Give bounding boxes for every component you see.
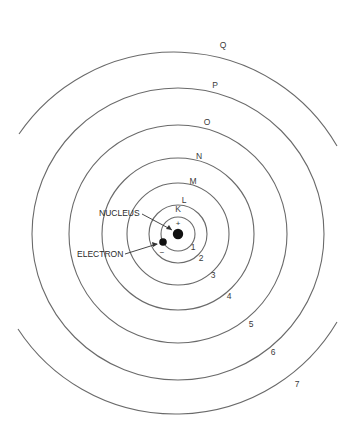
label-o: O <box>204 117 211 127</box>
shell-q-bottom-arc <box>18 322 337 414</box>
label-m: M <box>189 176 196 186</box>
label-7: 7 <box>295 379 300 389</box>
label-1: 1 <box>191 242 196 252</box>
nucleus: + <box>173 219 183 239</box>
nucleus-dot <box>173 229 183 239</box>
label-4: 4 <box>227 291 232 301</box>
callouts: NUCLEUS ELECTRON <box>77 208 172 259</box>
label-p: P <box>212 80 218 90</box>
atom-diagram: K L M N O P Q 1 2 3 4 5 6 7 + − <box>0 0 359 441</box>
electron-label: ELECTRON <box>77 249 123 259</box>
label-n: N <box>196 151 202 161</box>
label-k: K <box>175 204 181 214</box>
label-6: 6 <box>271 347 276 357</box>
label-3: 3 <box>211 270 216 280</box>
label-5: 5 <box>249 319 254 329</box>
label-q: Q <box>220 40 227 50</box>
diagram-canvas: K L M N O P Q 1 2 3 4 5 6 7 + − <box>0 0 359 441</box>
nucleus-label: NUCLEUS <box>99 208 140 218</box>
nucleus-charge: + <box>176 219 181 228</box>
electron-charge: − <box>160 248 165 257</box>
shell-q-top-arc <box>19 52 337 146</box>
electron: − <box>159 238 167 257</box>
label-l: L <box>182 195 187 205</box>
electron-arrowhead-icon <box>152 242 158 247</box>
label-2: 2 <box>199 253 204 263</box>
electron-dot <box>159 238 167 246</box>
